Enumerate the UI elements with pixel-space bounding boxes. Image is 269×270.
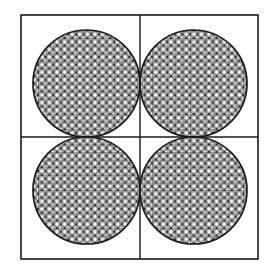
figure-canvas: Four Overlapping Circles in a Square Fra… [0,0,269,270]
hatched-regions [0,0,269,270]
four-circles-diagram: Four Overlapping Circles in a Square Fra… [0,0,269,270]
